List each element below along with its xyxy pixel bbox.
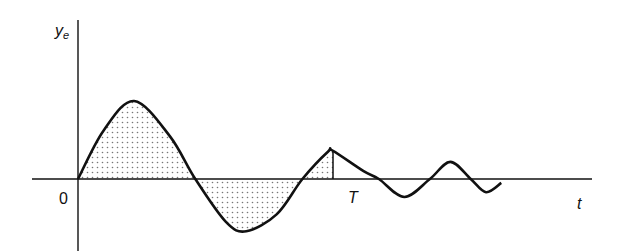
damped-response-diagram: ye 0 T t bbox=[0, 0, 617, 251]
T-label: T bbox=[348, 189, 359, 206]
origin-label: 0 bbox=[59, 190, 68, 207]
x-axis-label: t bbox=[577, 195, 582, 212]
y-axis-label: ye bbox=[54, 22, 69, 41]
shaded-area bbox=[78, 101, 501, 232]
